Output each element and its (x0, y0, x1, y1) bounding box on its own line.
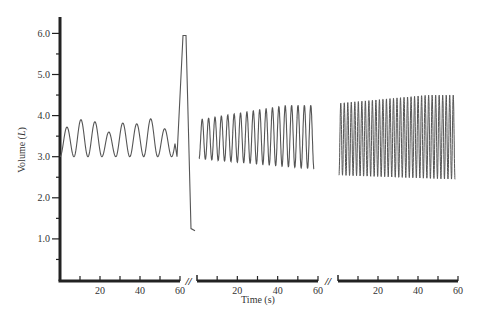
volume-traces (60, 36, 455, 231)
y-tick-label: 5.0 (38, 69, 51, 80)
y-axis: 1.02.03.04.05.06.0 (38, 17, 61, 281)
x-axis-segment-3: 204060 (338, 275, 463, 296)
trace-segment-3 (339, 95, 455, 179)
y-tick-label: 3.0 (38, 151, 51, 162)
y-tick-label: 2.0 (38, 192, 51, 203)
trace-segment-2 (199, 105, 314, 169)
trace-segment-1 (60, 36, 195, 231)
axis-break-icon: // (324, 275, 332, 287)
y-tick-label: 1.0 (38, 233, 51, 244)
x-axis-segment-1: 204060// (59, 275, 193, 296)
y-tick-label: 6.0 (38, 28, 51, 39)
x-axis-segment-2: 204060// (197, 275, 332, 296)
x-tick-label: 60 (453, 285, 463, 296)
x-tick-label: 60 (175, 285, 185, 296)
x-tick-label: 60 (313, 285, 323, 296)
y-axis-title: Volume (L) (16, 127, 28, 173)
x-tick-label: 40 (135, 285, 145, 296)
x-tick-label: 20 (373, 285, 383, 296)
spirometry-chart: 1.02.03.04.05.06.0 204060//204060//20406… (0, 0, 479, 327)
x-axis-title: Time (s) (241, 294, 275, 306)
y-tick-label: 4.0 (38, 110, 51, 121)
axis-break-icon: // (184, 275, 192, 287)
x-tick-label: 40 (413, 285, 423, 296)
x-axes: 204060//204060//204060 (59, 275, 464, 296)
x-tick-label: 20 (95, 285, 105, 296)
